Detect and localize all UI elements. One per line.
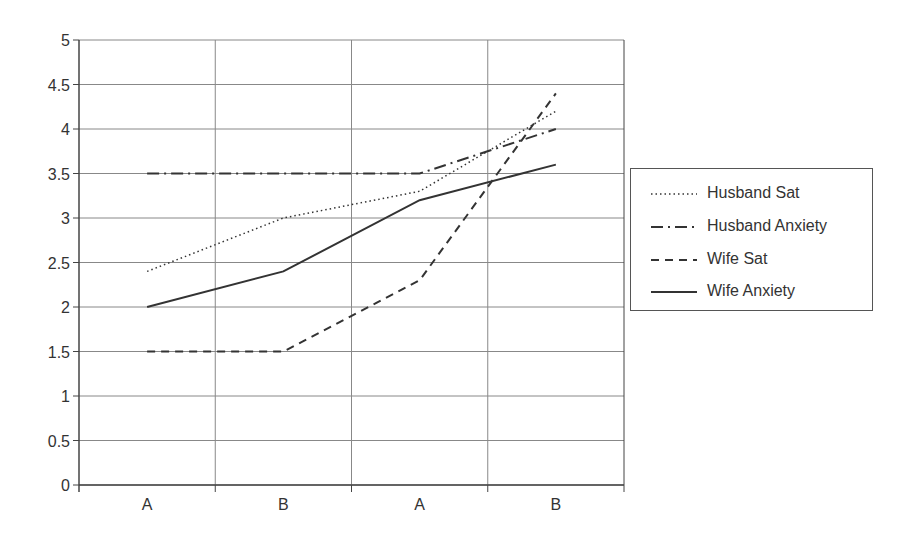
legend-label: Husband Sat: [707, 184, 800, 202]
axes: [73, 40, 624, 492]
dashed-line-swatch-icon: [649, 253, 701, 267]
gridlines: [79, 40, 624, 485]
legend: Husband Sat Husband Anxiety Wife Sat Wif…: [630, 168, 873, 311]
legend-label: Husband Anxiety: [707, 217, 827, 235]
legend-label: Wife Anxiety: [707, 282, 795, 300]
dotted-line-swatch-icon: [649, 187, 701, 201]
legend-item-wife-sat: Wife Sat: [631, 245, 872, 275]
x-tick-label: A: [142, 496, 153, 513]
solid-line-swatch-icon: [649, 285, 701, 299]
x-tick-label: B: [551, 496, 562, 513]
y-tick-label: 0.5: [48, 433, 70, 450]
y-tick-label: 5: [61, 32, 70, 49]
x-axis-tick-labels: ABAB: [142, 496, 561, 513]
y-tick-label: 3.5: [48, 166, 70, 183]
x-tick-label: B: [278, 496, 289, 513]
legend-item-husband-anxiety: Husband Anxiety: [631, 212, 872, 242]
y-tick-label: 2.5: [48, 255, 70, 272]
y-tick-label: 3: [61, 210, 70, 227]
legend-label: Wife Sat: [707, 250, 767, 268]
y-tick-label: 4.5: [48, 77, 70, 94]
legend-item-wife-anxiety: Wife Anxiety: [631, 277, 872, 307]
y-tick-label: 4: [61, 121, 70, 138]
x-tick-label: A: [414, 496, 425, 513]
y-tick-label: 1: [61, 388, 70, 405]
y-tick-label: 1.5: [48, 344, 70, 361]
y-tick-label: 2: [61, 299, 70, 316]
y-axis-tick-labels: 00.511.522.533.544.55: [48, 32, 70, 494]
legend-item-husband-sat: Husband Sat: [631, 179, 872, 209]
y-tick-label: 0: [61, 477, 70, 494]
dash-dot-line-swatch-icon: [649, 220, 701, 234]
